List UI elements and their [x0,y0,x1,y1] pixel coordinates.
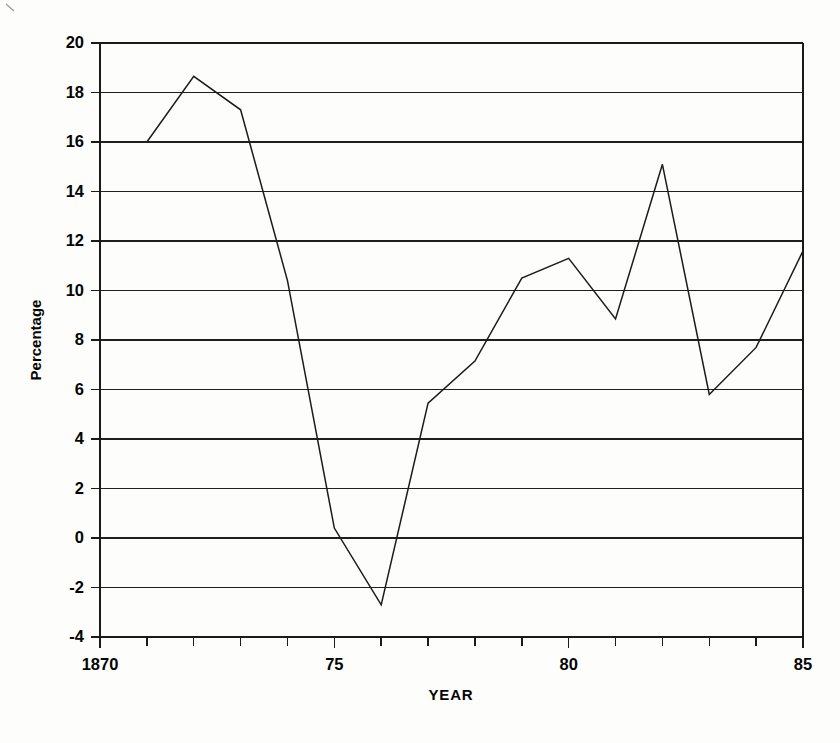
y-axis-tick-labels: 20181614121086420-2-4 [66,33,85,645]
y-tick-label-8: 8 [75,330,84,348]
y-tick-label-10: 10 [66,281,84,299]
y-tick-label-0: 0 [75,528,84,546]
chart-container: 20181614121086420-2-4 1870758085 YEAR Pe… [0,0,840,743]
y-tick-label-4: 4 [75,429,85,447]
x-tick-label-1875: 75 [325,655,343,673]
y-tick-label-20: 20 [66,33,84,51]
x-axis-ticks [100,637,803,648]
corner-scuff-mark [6,4,14,11]
x-tick-label-1885: 85 [794,655,812,673]
x-axis-title: YEAR [429,686,474,703]
line-chart: 20181614121086420-2-4 1870758085 YEAR Pe… [0,0,840,743]
y-tick-label-14: 14 [66,182,85,200]
y-tick-label-12: 12 [66,231,84,249]
x-axis-tick-labels: 1870758085 [82,655,813,673]
y-tick-label-18: 18 [66,83,84,101]
y-tick-label--2: -2 [69,578,84,596]
y-axis-title: Percentage [27,300,44,381]
x-tick-label-1870: 1870 [82,655,119,673]
y-tick-label-2: 2 [75,479,84,497]
y-tick-label-6: 6 [75,380,84,398]
y-axis-ticks [91,43,100,637]
y-tick-label-16: 16 [66,132,84,150]
x-tick-label-1880: 80 [559,655,577,673]
y-tick-label--4: -4 [69,627,84,645]
